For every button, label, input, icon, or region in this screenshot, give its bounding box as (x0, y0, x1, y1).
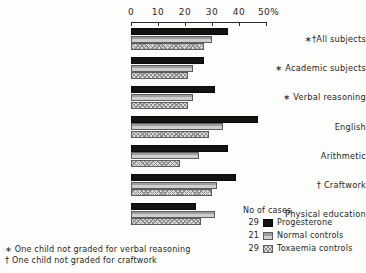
x-axis-label-30: 30 (206, 7, 218, 17)
x-axis-tick-50 (266, 22, 267, 26)
legend: No of cases 29Progesterone21Normal contr… (243, 206, 353, 257)
x-axis-label-40: 40 (233, 7, 245, 17)
category-label: ∗†All subjects (244, 34, 366, 44)
bar-group: † Craftwork (0, 174, 366, 196)
legend-title: No of cases (243, 206, 353, 215)
legend-rows: 29Progesterone21Normal controls29Toxaemi… (243, 218, 353, 253)
bar-toxaemia-controls (131, 131, 209, 138)
legend-count: 21 (243, 231, 259, 240)
x-axis-label-0: 0 (128, 7, 134, 17)
category-label: ∗ Verbal reasoning (244, 92, 366, 102)
x-axis-label-50: 50% (258, 7, 279, 17)
bar-group: English (0, 116, 366, 138)
x-axis-tick-10 (158, 22, 159, 26)
bar-group: Arithmetic (0, 145, 366, 167)
bar-toxaemia-controls (131, 189, 212, 196)
x-axis-line (131, 22, 266, 23)
bar-toxaemia-controls (131, 102, 188, 109)
legend-count: 29 (243, 244, 259, 253)
bar-progesterone (131, 86, 215, 93)
footnote-craftwork: † One child not graded for craftwork (5, 256, 190, 267)
bar-toxaemia-controls (131, 43, 204, 50)
legend-label: Normal controls (277, 231, 343, 240)
x-axis-label-10: 10 (152, 7, 164, 17)
bar-progesterone (131, 174, 236, 181)
bar-normal-controls (131, 123, 223, 130)
footnotes: ∗ One child not graded for verbal reason… (5, 245, 190, 266)
x-axis-tick-0 (131, 22, 132, 26)
bar-group: ∗ Verbal reasoning (0, 86, 366, 108)
legend-swatch-icon (263, 232, 273, 240)
legend-label: Progesterone (277, 218, 332, 227)
category-label: English (244, 122, 366, 132)
bar-normal-controls (131, 182, 217, 189)
bar-group: ∗†All subjects (0, 28, 366, 50)
legend-count: 29 (243, 218, 259, 227)
category-label: † Craftwork (244, 180, 366, 190)
bar-normal-controls (131, 211, 215, 218)
footnote-verbal-reasoning: ∗ One child not graded for verbal reason… (5, 245, 190, 256)
bar-normal-controls (131, 65, 193, 72)
bar-toxaemia-controls (131, 72, 188, 79)
bar-progesterone (131, 145, 228, 152)
bar-progesterone (131, 57, 204, 64)
bar-group: ∗ Academic subjects (0, 57, 366, 79)
x-axis-tick-20 (185, 22, 186, 26)
bar-toxaemia-controls (131, 218, 201, 225)
x-axis-tick-30 (212, 22, 213, 26)
legend-swatch-icon (263, 245, 273, 253)
legend-item-progesterone: 29Progesterone (243, 218, 353, 227)
legend-swatch-icon (263, 219, 273, 227)
category-label: ∗ Academic subjects (244, 63, 366, 73)
x-axis-tick-40 (239, 22, 240, 26)
legend-item-toxaemia-controls: 29Toxaemia controls (243, 244, 353, 253)
bar-progesterone (131, 203, 196, 210)
legend-item-normal-controls: 21Normal controls (243, 231, 353, 240)
category-label: Arithmetic (244, 151, 366, 161)
x-axis-label-20: 20 (179, 7, 191, 17)
bar-progesterone (131, 28, 228, 35)
legend-label: Toxaemia controls (277, 244, 353, 253)
bar-toxaemia-controls (131, 160, 180, 167)
bar-normal-controls (131, 152, 199, 159)
grouped-bar-chart: 01020304050% ∗†All subjects∗ Academic su… (0, 0, 366, 273)
bar-normal-controls (131, 94, 193, 101)
bar-normal-controls (131, 36, 212, 43)
bar-progesterone (131, 116, 258, 123)
